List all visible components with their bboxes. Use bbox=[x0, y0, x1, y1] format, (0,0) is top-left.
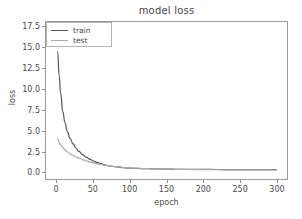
x-tick-mark bbox=[203, 180, 204, 183]
series-line-train bbox=[58, 52, 276, 170]
x-tick-mark bbox=[130, 180, 131, 183]
x-tick-label: 300 bbox=[269, 185, 284, 194]
x-tick-mark bbox=[240, 180, 241, 183]
x-tick-mark bbox=[93, 180, 94, 183]
x-tick-label: 150 bbox=[159, 185, 174, 194]
y-axis-label: loss bbox=[8, 78, 17, 118]
legend-label-test: test bbox=[73, 36, 87, 45]
series-line-test bbox=[58, 139, 276, 170]
legend-label-train: train bbox=[73, 26, 90, 35]
x-tick-label: 0 bbox=[53, 185, 58, 194]
y-tick-label: 12.5 bbox=[6, 63, 40, 72]
chart-title: model loss bbox=[45, 5, 288, 16]
x-tick-mark bbox=[167, 180, 168, 183]
legend-item-test: test bbox=[51, 36, 107, 45]
legend-swatch-test bbox=[51, 40, 68, 41]
y-tick-label: 17.5 bbox=[6, 22, 40, 31]
x-tick-label: 250 bbox=[232, 185, 247, 194]
x-tick-label: 200 bbox=[196, 185, 211, 194]
matplotlib-figure: model loss loss epoch 0.02.55.07.510.012… bbox=[0, 0, 302, 219]
x-tick-mark bbox=[56, 180, 57, 183]
legend-item-train: train bbox=[51, 26, 107, 35]
x-tick-mark bbox=[277, 180, 278, 183]
legend-swatch-train bbox=[51, 30, 68, 31]
x-tick-label: 100 bbox=[122, 185, 137, 194]
legend: train test bbox=[46, 22, 112, 47]
y-tick-label: 2.5 bbox=[6, 147, 40, 156]
x-axis-label: epoch bbox=[45, 198, 288, 207]
y-tick-label: 5.0 bbox=[6, 126, 40, 135]
y-tick-label: 15.0 bbox=[6, 42, 40, 51]
y-tick-label: 0.0 bbox=[6, 168, 40, 177]
x-tick-label: 50 bbox=[88, 185, 98, 194]
